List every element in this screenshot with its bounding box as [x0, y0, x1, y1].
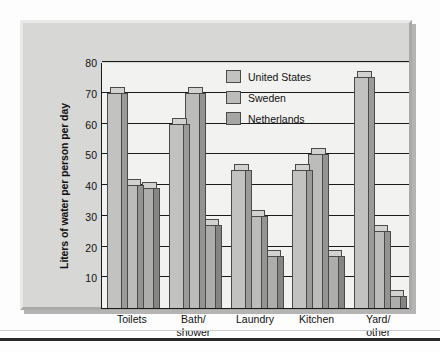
y-axis-tick-labels: 1020304050607080	[71, 59, 97, 309]
y-axis-tick-label: 20	[71, 242, 97, 254]
legend-item-label: Sweden	[248, 92, 286, 104]
legend-item[interactable]: Sweden	[226, 88, 348, 107]
bar-side-face	[122, 93, 128, 308]
bar-side-face	[184, 124, 190, 309]
y-axis-tick-label: 50	[71, 149, 97, 161]
chart-legend: United StatesSwedenNetherlands	[226, 67, 348, 130]
bar-side-face	[200, 93, 206, 308]
chart-page: Liters of water per person per day 10203…	[0, 0, 440, 352]
y-axis-tick-label: 60	[71, 119, 97, 131]
bar-side-face	[401, 296, 407, 308]
bar-united-states	[292, 164, 307, 308]
bar-united-states	[354, 71, 369, 308]
y-axis-tick-label: 40	[71, 180, 97, 192]
x-axis-tick-label: Laundry	[236, 313, 274, 326]
bar-side-face	[278, 256, 284, 308]
bar-side-face	[339, 256, 345, 308]
bar-side-face	[138, 185, 144, 308]
legend-item-label: United States	[248, 71, 311, 83]
x-axis-tick-label: Toilets	[117, 313, 147, 326]
x-axis-tick-label-line: Laundry	[236, 313, 274, 326]
legend-swatch-icon	[226, 91, 241, 104]
bar-side-face	[307, 170, 313, 308]
x-axis-tick-label: Kitchen	[299, 313, 334, 326]
y-axis-tick-label: 80	[71, 57, 97, 69]
x-axis-tick-label-line: Yard/	[366, 313, 390, 326]
x-axis-tick-label-line: Bath/	[176, 313, 210, 326]
legend-item[interactable]: United States	[226, 67, 348, 86]
bar-side-face	[262, 216, 268, 308]
bar-united-states	[107, 87, 122, 308]
bar-united-states	[231, 164, 246, 308]
page-rule-faint	[0, 330, 440, 331]
x-axis-tick-label: Bath/shower	[176, 313, 210, 339]
y-axis-tick-label: 70	[71, 88, 97, 100]
bar-side-face	[323, 154, 329, 308]
bar-front-face	[107, 93, 122, 308]
bar-front-face	[169, 124, 184, 309]
bar-side-face	[216, 225, 222, 308]
x-axis-tick-label-line: Toilets	[117, 313, 147, 326]
chart-panel: Liters of water per person per day 10203…	[20, 20, 412, 310]
legend-item[interactable]: Netherlands	[226, 109, 348, 128]
bar-front-face	[231, 170, 246, 308]
y-axis-tick-label: 30	[71, 211, 97, 223]
bar-side-face	[154, 188, 160, 308]
page-rule	[0, 338, 440, 341]
y-axis-tick-label: 10	[71, 272, 97, 284]
legend-swatch-icon	[226, 112, 241, 125]
x-axis-tick-label: Yard/other	[366, 313, 390, 339]
bar-side-face	[369, 77, 375, 308]
bar-united-states	[169, 118, 184, 309]
bar-front-face	[354, 77, 369, 308]
bar-front-face	[292, 170, 307, 308]
legend-swatch-icon	[226, 70, 241, 83]
gridline	[102, 61, 409, 62]
x-axis-tick-label-line: Kitchen	[299, 313, 334, 326]
bar-side-face	[385, 231, 391, 308]
legend-item-label: Netherlands	[248, 113, 305, 125]
bar-side-face	[246, 170, 252, 308]
